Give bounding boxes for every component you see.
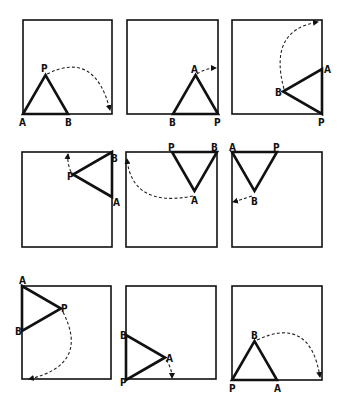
square-outline	[126, 152, 217, 247]
triangle-apb	[232, 341, 277, 380]
triangle-apb	[173, 75, 218, 114]
vertex-label-a: A	[19, 275, 26, 286]
rotation-arrow-icon	[257, 333, 320, 377]
vertex-label-b: B	[251, 330, 258, 341]
triangle-apb	[23, 75, 68, 114]
panel-3: ABP	[232, 20, 331, 128]
vertex-label-a: A	[191, 195, 198, 206]
vertex-label-a: A	[324, 64, 331, 75]
triangle-apb	[232, 152, 277, 191]
vertex-label-b: B	[15, 326, 22, 337]
triangle-apb	[283, 69, 322, 114]
vertex-label-p: P	[67, 171, 74, 182]
vertex-label-p: P	[229, 383, 236, 394]
vertex-label-a: A	[19, 117, 26, 128]
vertex-label-b: B	[275, 87, 282, 98]
vertex-label-b: B	[169, 117, 176, 128]
panel-5: ABP	[126, 142, 218, 247]
rotation-arrow-icon	[233, 196, 252, 202]
vertex-label-p: P	[273, 142, 280, 153]
panel-1: ABP	[19, 20, 112, 128]
rotation-arrow-icon	[47, 67, 110, 110]
vertex-label-p: P	[318, 117, 325, 128]
vertex-label-p: P	[214, 117, 221, 128]
triangle-rolling-diagram: ABPABPABPABPABPABPABPABPABP	[0, 0, 344, 415]
panel-9: ABP	[229, 286, 322, 394]
rotation-arrow-icon	[68, 154, 71, 172]
square-outline	[232, 152, 322, 247]
vertex-label-p: P	[41, 63, 48, 74]
square-outline	[22, 286, 111, 379]
rotation-arrow-icon	[197, 68, 216, 74]
square-outline	[232, 20, 322, 114]
vertex-label-a: A	[166, 353, 173, 364]
vertex-label-p: P	[61, 303, 68, 314]
panel-2: ABP	[127, 20, 221, 128]
panel-4: ABP	[22, 152, 120, 247]
triangle-apb	[126, 335, 165, 380]
triangle-apb	[73, 152, 112, 197]
vertex-label-a: A	[229, 142, 236, 153]
vertex-label-b: B	[251, 196, 258, 207]
vertex-label-b: B	[65, 117, 72, 128]
square-outline	[22, 152, 112, 247]
panels-group: ABPABPABPABPABPABPABPABPABP	[15, 20, 331, 394]
vertex-label-b: B	[111, 153, 118, 164]
vertex-label-a: A	[113, 197, 120, 208]
panel-8: ABP	[120, 286, 216, 388]
rotation-arrow-icon	[280, 22, 318, 89]
square-outline	[126, 286, 216, 379]
vertex-label-p: P	[120, 377, 127, 388]
square-outline	[127, 20, 218, 114]
rotation-arrow-icon	[127, 159, 193, 198]
triangle-apb	[172, 152, 217, 191]
vertex-label-b: B	[120, 330, 127, 341]
panel-7: ABP	[15, 275, 111, 379]
vertex-label-p: P	[168, 142, 175, 153]
panel-6: ABP	[229, 142, 322, 247]
vertex-label-b: B	[211, 142, 218, 153]
triangle-apb	[22, 286, 61, 331]
vertex-label-a: A	[191, 64, 198, 75]
vertex-label-a: A	[274, 383, 281, 394]
